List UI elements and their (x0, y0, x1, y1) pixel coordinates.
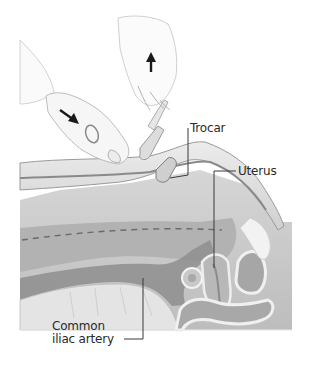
ovary (182, 268, 202, 288)
common-iliac-artery-label: Common iliac artery (52, 320, 114, 346)
trocar-label: Trocar (190, 122, 225, 134)
left-hand (20, 40, 129, 164)
laparoscopy-illustration: Trocar Uterus Common iliac artery (0, 0, 309, 376)
iliac-label-line2: iliac artery (52, 333, 114, 346)
right-hand (118, 16, 177, 110)
illustration-canvas (0, 0, 309, 376)
uterus-label: Uterus (238, 165, 276, 177)
